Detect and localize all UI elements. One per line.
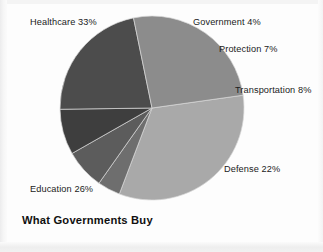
pie-slice-education[interactable]: [134, 16, 244, 108]
pie-label-protection: Protection 7%: [219, 44, 278, 54]
pie-label-defense: Defense 22%: [224, 164, 280, 174]
pie-chart: Healthcare 33% Government 4% Protection …: [0, 0, 323, 252]
pie-label-healthcare: Healthcare 33%: [30, 17, 97, 27]
pie-label-government: Government 4%: [193, 17, 261, 27]
figure-page: Healthcare 33% Government 4% Protection …: [0, 0, 323, 252]
pie-slice-group: [60, 16, 244, 200]
chart-title: What Governments Buy: [22, 214, 153, 226]
pie-label-education: Education 26%: [30, 184, 93, 194]
pie-label-transportation: Transportation 8%: [235, 85, 311, 95]
